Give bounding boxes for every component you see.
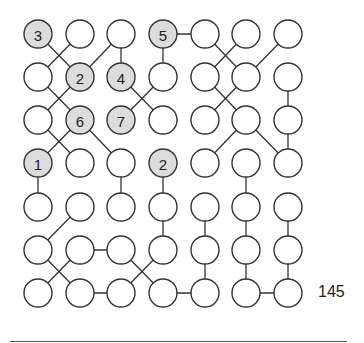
clue-number: 5 (159, 27, 167, 44)
empty-node (24, 193, 52, 221)
node-circle (191, 20, 219, 48)
empty-node (66, 149, 94, 177)
node-circle (66, 236, 94, 264)
empty-node (191, 149, 219, 177)
node-circle (191, 63, 219, 91)
empty-node (24, 63, 52, 91)
empty-node (232, 193, 260, 221)
node-circle (107, 279, 135, 307)
node-circle (232, 106, 260, 134)
node-circle (274, 63, 302, 91)
empty-node (191, 236, 219, 264)
empty-node (274, 63, 302, 91)
clue-number: 6 (76, 113, 84, 130)
empty-node (149, 106, 177, 134)
empty-node (149, 63, 177, 91)
node-circle (274, 279, 302, 307)
clue-node: 6 (66, 106, 94, 134)
clue-node: 5 (149, 20, 177, 48)
empty-node (274, 106, 302, 134)
empty-node (107, 20, 135, 48)
empty-node (66, 279, 94, 307)
empty-node (191, 279, 219, 307)
node-circle (191, 193, 219, 221)
clue-node: 4 (107, 63, 135, 91)
empty-node (149, 193, 177, 221)
clue-number: 3 (34, 27, 42, 44)
page-number: 145 (318, 283, 345, 301)
empty-node (107, 193, 135, 221)
node-circle (191, 106, 219, 134)
clue-number: 2 (76, 70, 84, 87)
empty-node (191, 106, 219, 134)
node-circle (274, 20, 302, 48)
empty-node (149, 279, 177, 307)
empty-node (274, 20, 302, 48)
clue-node: 2 (149, 149, 177, 177)
clue-node: 2 (66, 63, 94, 91)
node-circle (24, 193, 52, 221)
node-circle (232, 63, 260, 91)
empty-node (191, 193, 219, 221)
node-circle (191, 149, 219, 177)
node-circle (66, 193, 94, 221)
empty-node (232, 236, 260, 264)
empty-node (24, 279, 52, 307)
node-circle (232, 20, 260, 48)
empty-node (191, 63, 219, 91)
empty-node (191, 20, 219, 48)
node-circle (24, 279, 52, 307)
node-circle (66, 20, 94, 48)
empty-node (66, 193, 94, 221)
clue-node: 7 (107, 106, 135, 134)
empty-node (274, 279, 302, 307)
clue-number: 1 (34, 156, 42, 173)
empty-node (232, 63, 260, 91)
empty-node (274, 149, 302, 177)
clue-node: 1 (24, 149, 52, 177)
node-circle (274, 149, 302, 177)
node-circle (107, 193, 135, 221)
empty-node (24, 236, 52, 264)
node-circle (24, 63, 52, 91)
clue-number: 2 (159, 156, 167, 173)
empty-node (274, 193, 302, 221)
node-circle (191, 279, 219, 307)
node-circle (149, 279, 177, 307)
node-circle (232, 236, 260, 264)
empty-node (107, 149, 135, 177)
node-circle (149, 63, 177, 91)
node-circle (149, 106, 177, 134)
empty-node (107, 279, 135, 307)
node-circle (149, 193, 177, 221)
empty-node (66, 20, 94, 48)
empty-node (149, 236, 177, 264)
empty-node (66, 236, 94, 264)
node-circle (232, 279, 260, 307)
node-circle (66, 279, 94, 307)
node-circle (149, 236, 177, 264)
clue-number: 7 (117, 113, 125, 130)
node-circle (66, 149, 94, 177)
empty-node (274, 236, 302, 264)
node-circle (274, 193, 302, 221)
empty-node (232, 20, 260, 48)
empty-node (232, 106, 260, 134)
node-circle (274, 236, 302, 264)
node-circle (107, 236, 135, 264)
clue-number: 4 (117, 70, 125, 87)
node-circle (232, 193, 260, 221)
empty-node (24, 106, 52, 134)
node-circle (24, 236, 52, 264)
node-circle (274, 106, 302, 134)
node-circle (191, 236, 219, 264)
footer-rule (10, 341, 347, 342)
empty-node (107, 236, 135, 264)
node-circle (24, 106, 52, 134)
node-circle (107, 149, 135, 177)
empty-node (232, 149, 260, 177)
clue-node: 3 (24, 20, 52, 48)
empty-node (232, 279, 260, 307)
node-circle (232, 149, 260, 177)
node-circle (107, 20, 135, 48)
